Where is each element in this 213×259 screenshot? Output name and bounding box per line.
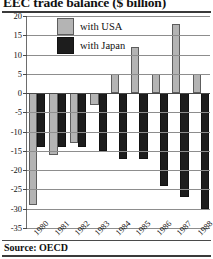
legend-label-usa: with USA <box>80 21 122 32</box>
y-axis-tick <box>23 93 27 94</box>
usa-swatch-icon <box>57 18 74 35</box>
bar-group <box>129 16 149 228</box>
bar-group <box>150 16 170 228</box>
y-axis-tick-label: -10 <box>11 128 22 136</box>
y-axis-tick <box>23 132 27 133</box>
bar-japan-1984 <box>119 93 127 159</box>
gridline <box>27 93 210 94</box>
gridline <box>27 132 210 133</box>
y-axis-tick-label: 20 <box>14 12 23 20</box>
y-axis-tick-label: 5 <box>18 70 22 78</box>
y-axis-tick-label: -5 <box>15 108 22 116</box>
y-axis-tick <box>23 189 27 190</box>
footer-rule-top <box>2 240 211 241</box>
y-axis-tick-label: -30 <box>11 205 22 213</box>
bar-usa-1986 <box>152 74 160 93</box>
y-axis-tick <box>23 16 27 17</box>
bar-japan-1987 <box>180 93 188 197</box>
y-axis-tick-label: 0 <box>18 89 22 97</box>
bar-usa-1980 <box>29 93 37 205</box>
gridline <box>27 74 210 75</box>
y-axis-tick <box>23 55 27 56</box>
y-axis-tick <box>23 170 27 171</box>
bar-japan-1982 <box>78 93 86 147</box>
bar-usa-1982 <box>70 93 78 143</box>
gridline <box>27 189 210 190</box>
y-axis-tick <box>23 74 27 75</box>
bar-japan-1980 <box>37 93 45 147</box>
bar-usa-1988 <box>193 74 201 93</box>
gridline <box>27 209 210 210</box>
chart-legend: with USA with Japan <box>57 17 125 55</box>
y-axis-tick-label: -25 <box>11 185 22 193</box>
bar-usa-1983 <box>90 93 98 105</box>
bar-japan-1983 <box>99 93 107 151</box>
bar-usa-1981 <box>49 93 57 155</box>
chart-title: EEC trade balance ($ billion) <box>3 0 211 9</box>
bar-group <box>27 16 47 228</box>
bar-group <box>170 16 190 228</box>
legend-entry-japan: with Japan <box>57 36 125 55</box>
bar-group <box>191 16 211 228</box>
y-axis-tick-label: -35 <box>11 224 22 232</box>
chart-figure: EEC trade balance ($ billion) 20151050-5… <box>0 0 213 259</box>
bar-japan-1985 <box>139 93 147 159</box>
y-axis-tick <box>23 112 27 113</box>
gridline <box>27 151 210 152</box>
bar-usa-1987 <box>172 24 180 93</box>
y-axis-tick <box>23 151 27 152</box>
gridline <box>27 112 210 113</box>
source-note: Source: OECD <box>4 242 68 254</box>
y-axis-tick-label: -15 <box>11 147 22 155</box>
y-axis-tick <box>23 35 27 36</box>
footer-rule-bottom <box>2 255 211 257</box>
legend-entry-usa: with USA <box>57 17 125 36</box>
bar-japan-1981 <box>58 93 66 147</box>
japan-swatch-icon <box>57 37 74 54</box>
y-axis-tick <box>23 209 27 210</box>
legend-label-japan: with Japan <box>80 40 125 51</box>
y-axis-tick <box>23 228 27 229</box>
bar-japan-1986 <box>160 93 168 186</box>
gridline <box>27 170 210 171</box>
y-axis-tick-label: 10 <box>14 51 23 59</box>
y-axis-tick-label: 15 <box>14 31 23 39</box>
y-axis-tick-label: -20 <box>11 166 22 174</box>
bar-usa-1984 <box>111 74 119 93</box>
